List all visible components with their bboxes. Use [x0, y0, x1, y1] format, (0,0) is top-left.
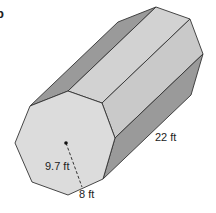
apothem-label: 9.7 ft — [45, 160, 69, 172]
part-label: b — [0, 6, 4, 21]
center-point — [64, 141, 68, 145]
prism-faces — [15, 7, 203, 195]
side-length-label: 8 ft — [79, 188, 94, 200]
octagonal-prism-diagram: b 9.7 ft 8 ft 22 ft — [0, 0, 216, 213]
prism-length-label: 22 ft — [155, 131, 176, 143]
